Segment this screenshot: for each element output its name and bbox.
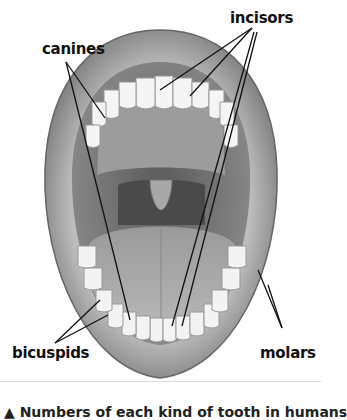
label-molars: molars xyxy=(260,344,316,362)
caption-divider xyxy=(0,381,321,382)
label-bicuspids: bicuspids xyxy=(12,344,89,362)
label-incisors: incisors xyxy=(230,9,293,27)
label-canines: canines xyxy=(42,40,105,58)
figure-caption: ▲ Numbers of each kind of tooth in human… xyxy=(4,404,347,420)
